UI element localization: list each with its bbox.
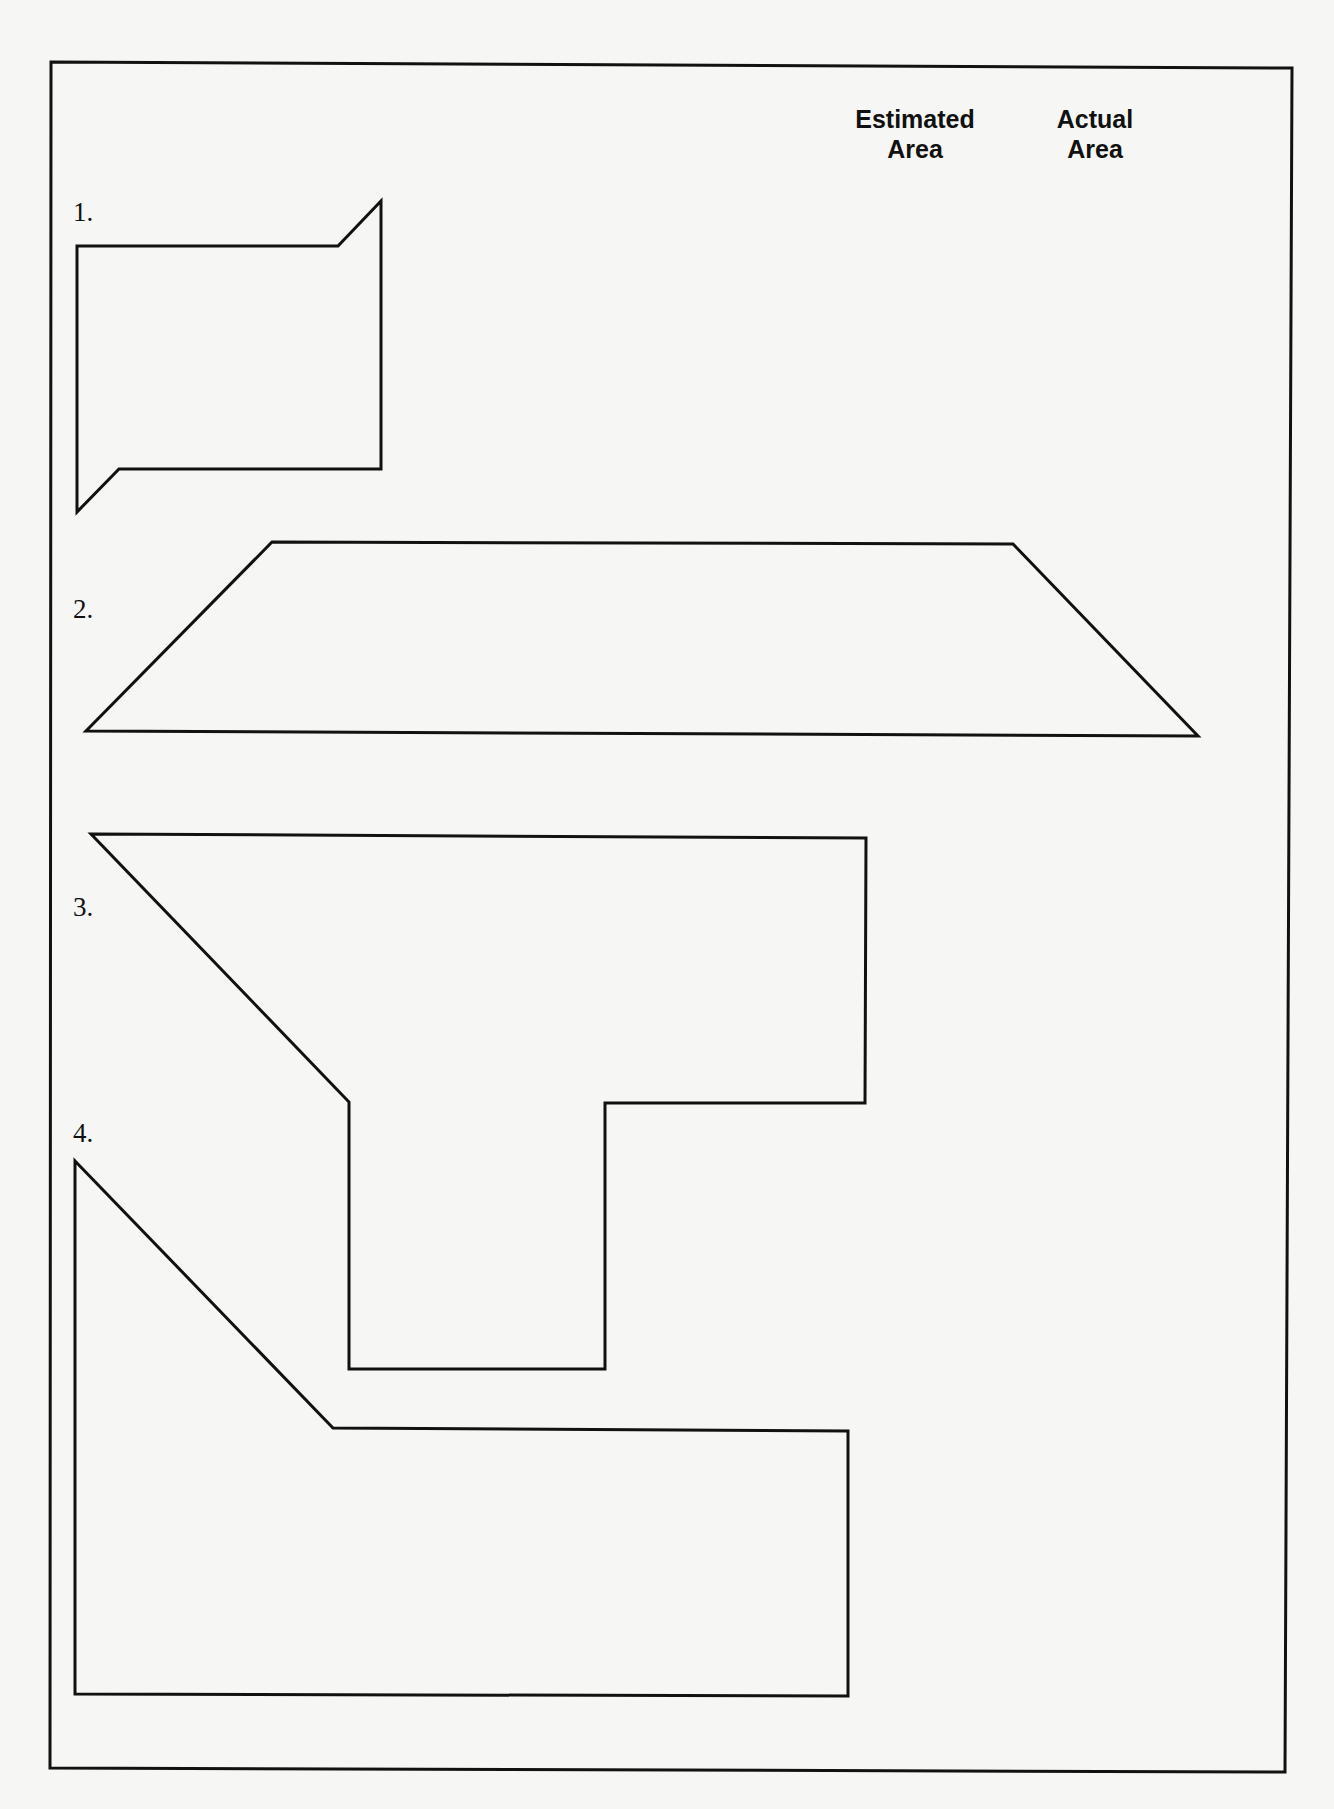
shape-4-irregular-polygon — [75, 1161, 848, 1696]
actual-area-header: Actual Area — [1035, 104, 1155, 164]
actual-area-header-line2: Area — [1035, 134, 1155, 164]
estimated-area-header: Estimated Area — [840, 104, 990, 164]
problem-4-actual-area[interactable] — [1060, 1118, 1180, 1152]
problem-1-label: 1. — [73, 197, 93, 227]
problem-2-actual-area[interactable] — [1035, 594, 1155, 628]
problem-1-actual-area[interactable] — [1035, 200, 1155, 234]
shape-3-irregular-polygon — [91, 834, 866, 1369]
worksheet-page: Estimated Area Actual Area 1. 2. 3. 4. — [0, 0, 1334, 1809]
estimated-area-header-line1: Estimated — [840, 104, 990, 134]
shape-2-trapezoid — [86, 542, 1198, 736]
shape-1-notched-rectangle — [77, 201, 381, 512]
actual-area-header-line1: Actual — [1035, 104, 1155, 134]
estimated-area-header-line2: Area — [840, 134, 990, 164]
problem-3-actual-area[interactable] — [1060, 892, 1180, 926]
problem-2-label: 2. — [73, 594, 93, 624]
problem-4-estimated-area[interactable] — [900, 1118, 1020, 1152]
problem-3-estimated-area[interactable] — [900, 892, 1020, 926]
problem-3-label: 3. — [73, 892, 93, 922]
problem-4-label: 4. — [73, 1118, 93, 1148]
problem-2-estimated-area[interactable] — [845, 594, 985, 628]
problem-1-estimated-area[interactable] — [845, 200, 985, 234]
